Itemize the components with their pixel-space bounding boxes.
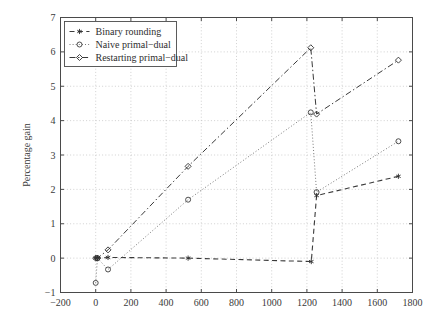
y-tick-label: 5 (51, 81, 56, 92)
series-1 (93, 110, 401, 286)
x-tick-label: 1400 (332, 297, 352, 308)
y-tick-label: −1 (45, 287, 56, 298)
y-tick-label: 6 (51, 46, 56, 57)
y-tick-label: 2 (51, 184, 56, 195)
y-axis-label: Percentage gain (21, 123, 32, 187)
x-tick-label: 800 (229, 297, 244, 308)
series-2 (93, 45, 402, 261)
x-tick-label: 1000 (262, 297, 282, 308)
series-0 (93, 174, 400, 264)
series-path (96, 48, 399, 258)
x-tick-label: 400 (159, 297, 174, 308)
y-tick-label: 1 (51, 218, 56, 229)
y-tick-label: 4 (51, 115, 56, 126)
diamond-icon (395, 57, 401, 63)
x-tick-label: 0 (93, 297, 98, 308)
y-tick-label: 3 (51, 150, 56, 161)
x-tick-label: 1200 (297, 297, 317, 308)
x-tick-label: 1800 (403, 297, 423, 308)
y-axis-title: Percentage gain (21, 123, 32, 187)
legend-label: Restarting primal−dual (96, 52, 189, 63)
line-chart: −200020040060080010001200140016001800−10… (0, 0, 429, 324)
x-tick-label: −200 (50, 297, 71, 308)
circle-icon (396, 139, 401, 144)
x-tick-label: 1600 (367, 297, 387, 308)
legend-label: Binary rounding (96, 26, 162, 37)
x-tick-label: 600 (194, 297, 209, 308)
legend-label: Naive primal−dual (96, 39, 172, 50)
x-tick-label: 200 (123, 297, 138, 308)
chart-legend[interactable]: Binary roundingNaive primal−dualRestarti… (65, 22, 189, 67)
y-tick-label: 7 (51, 12, 56, 23)
y-tick-label: 0 (51, 253, 56, 264)
data-series (93, 45, 402, 286)
chart-figure: −200020040060080010001200140016001800−10… (0, 0, 429, 324)
circle-icon (308, 110, 313, 115)
